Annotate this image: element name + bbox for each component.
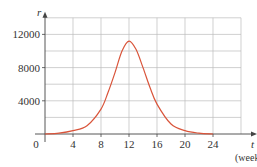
chart: 048121620244000800012000 r t (weeks)	[0, 0, 257, 167]
svg-text:0: 0	[33, 138, 39, 150]
x-axis-unit: (weeks)	[235, 152, 257, 164]
svg-text:12: 12	[124, 138, 135, 150]
svg-text:24: 24	[208, 138, 220, 150]
svg-text:8000: 8000	[18, 62, 41, 74]
svg-text:20: 20	[180, 138, 192, 150]
grid	[45, 18, 241, 134]
svg-text:4: 4	[70, 138, 76, 150]
y-axis-label: r	[37, 6, 42, 18]
svg-text:16: 16	[152, 138, 164, 150]
svg-text:8: 8	[98, 138, 104, 150]
svg-text:4000: 4000	[18, 95, 41, 107]
x-axis-label: t	[251, 138, 255, 150]
svg-text:12000: 12000	[13, 28, 41, 40]
